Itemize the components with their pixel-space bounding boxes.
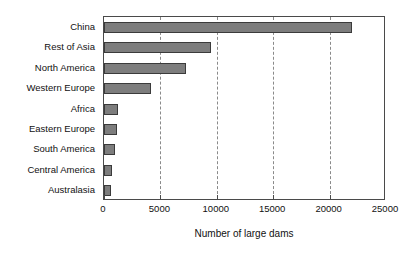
bar — [104, 185, 111, 196]
x-tick-label: 15000 — [259, 203, 285, 215]
bar — [104, 42, 211, 53]
axis-tick — [160, 195, 161, 199]
category-axis-labels: ChinaRest of AsiaNorth AmericaWestern Eu… — [0, 16, 99, 200]
category-label-central-america: Central America — [27, 164, 95, 175]
category-label-china: China — [70, 21, 95, 32]
x-tick-label: 10000 — [203, 203, 229, 215]
category-label-western-europe: Western Europe — [27, 82, 95, 93]
category-label-eastern-europe: Eastern Europe — [29, 123, 95, 134]
category-label-south-america: South America — [33, 143, 95, 154]
gridline — [273, 17, 274, 199]
x-tick-label: 25000 — [372, 203, 398, 215]
bar — [104, 144, 115, 155]
category-label-north-america: North America — [35, 62, 95, 73]
axis-tick — [330, 195, 331, 199]
bar — [104, 165, 112, 176]
category-label-africa: Africa — [71, 103, 95, 114]
bar — [104, 83, 151, 94]
value-axis-tick-labels: 0500010000150002000025000 — [0, 203, 414, 217]
axis-tick — [273, 195, 274, 199]
bar — [104, 63, 186, 74]
x-tick-label: 20000 — [315, 203, 341, 215]
category-label-australasia: Australasia — [48, 184, 95, 195]
x-tick-label: 0 — [100, 203, 105, 215]
x-axis-title: Number of large dams — [103, 228, 385, 240]
axis-tick — [217, 195, 218, 199]
bar-chart-figure: ChinaRest of AsiaNorth AmericaWestern Eu… — [0, 0, 414, 255]
gridline — [330, 17, 331, 199]
category-label-rest-of-asia: Rest of Asia — [44, 41, 95, 52]
gridline — [217, 17, 218, 199]
axis-tick — [104, 195, 105, 199]
bar — [104, 104, 118, 115]
bar — [104, 124, 117, 135]
bar — [104, 22, 352, 33]
plot-area — [103, 16, 385, 200]
x-tick-label: 5000 — [149, 203, 170, 215]
